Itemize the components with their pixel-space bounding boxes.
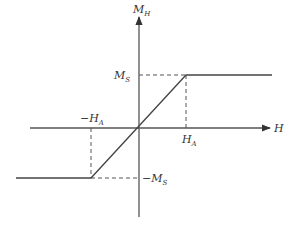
neg-ms-label: −MS [142, 172, 167, 187]
m-axis-label: MH [132, 3, 151, 18]
ha-label: HA [181, 133, 197, 148]
ms-label: MS [113, 69, 130, 84]
magnetization-curve [16, 75, 272, 178]
neg-ha-label: −HA [80, 112, 104, 127]
h-axis-label: H [273, 122, 284, 135]
magnetization-diagram: MH H MS −MS HA −HA [0, 0, 298, 227]
